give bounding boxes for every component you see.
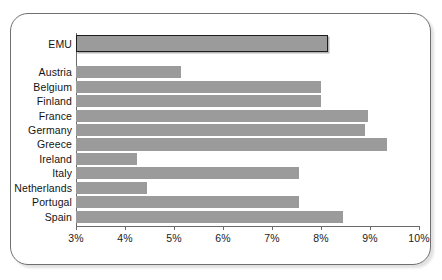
category-label: Belgium [33, 81, 72, 93]
category-label: Italy [52, 167, 72, 179]
plot-area: 3%4%5%6%7%8%9%10% EMUAustriaBelgiumFinla… [76, 33, 419, 226]
x-tick-label: 9% [350, 232, 390, 244]
x-tick-label: 3% [56, 232, 96, 244]
chart-figure: 3%4%5%6%7%8%9%10% EMUAustriaBelgiumFinla… [0, 0, 442, 280]
x-tick-7 [419, 226, 420, 230]
x-tick-2 [174, 226, 175, 230]
category-label: EMU [48, 38, 72, 50]
bar [76, 35, 328, 52]
x-tick-3 [223, 226, 224, 230]
bar-row: France [76, 110, 419, 122]
category-label: Portugal [32, 196, 72, 208]
bar [76, 124, 365, 136]
bar-row: Italy [76, 167, 419, 179]
bar [76, 211, 343, 223]
category-label: France [39, 110, 72, 122]
category-label: Finland [37, 95, 72, 107]
x-tick-5 [321, 226, 322, 230]
bar-row: Germany [76, 124, 419, 136]
bar [76, 95, 321, 107]
category-label: Germany [28, 124, 72, 136]
bar-row: Portugal [76, 196, 419, 208]
x-tick-label: 10% [399, 232, 439, 244]
bar-row: Netherlands [76, 182, 419, 194]
x-tick-label: 6% [203, 232, 243, 244]
category-label: Netherlands [14, 182, 72, 194]
bar-row: Belgium [76, 81, 419, 93]
bar [76, 167, 299, 179]
x-tick-0 [76, 226, 77, 230]
bar-row: Austria [76, 66, 419, 78]
bar [76, 138, 387, 150]
category-label: Ireland [39, 153, 72, 165]
x-tick-label: 7% [252, 232, 292, 244]
category-label: Greece [37, 138, 72, 150]
x-tick-1 [125, 226, 126, 230]
bar-row: EMU [76, 35, 419, 52]
bar-row: Spain [76, 211, 419, 223]
x-tick-label: 5% [154, 232, 194, 244]
bar [76, 66, 181, 78]
bar [76, 110, 368, 122]
x-tick-4 [272, 226, 273, 230]
bar-row: Greece [76, 138, 419, 150]
x-axis-line [76, 226, 420, 227]
bar-row: Ireland [76, 153, 419, 165]
category-label: Austria [39, 66, 72, 78]
x-tick-label: 8% [301, 232, 341, 244]
bar-row: Finland [76, 95, 419, 107]
bar [76, 153, 137, 165]
x-tick-label: 4% [105, 232, 145, 244]
bar [76, 196, 299, 208]
x-tick-6 [370, 226, 371, 230]
bar [76, 182, 147, 194]
bar [76, 81, 321, 93]
category-label: Spain [45, 211, 72, 223]
